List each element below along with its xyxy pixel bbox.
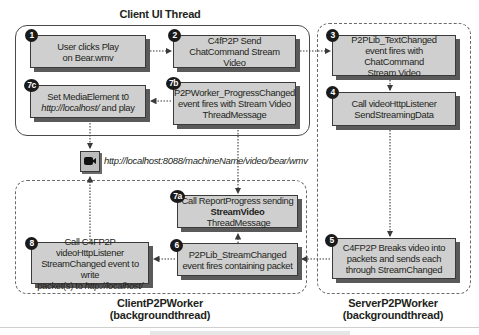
- step-5-badge: 5: [325, 234, 338, 247]
- step-8-badge: 8: [25, 237, 38, 250]
- step-2-badge: 2: [168, 29, 181, 42]
- step-5-line3: through StreamChanged: [346, 264, 442, 275]
- step-1-badge: 1: [25, 29, 38, 42]
- step-4-badge: 4: [326, 86, 339, 99]
- stream-url: http://localhost:8088/machineName/video/…: [104, 155, 308, 166]
- step-3-line2: event fires with ChatCommand: [364, 45, 424, 67]
- step-7b-badge: 7b: [166, 77, 181, 90]
- server-p2p-worker-title-line1: ServerP2PWorker: [348, 297, 438, 309]
- step-6-line1: P2PLib_StreamChanged: [189, 249, 287, 260]
- step-7a-bold: StreamVideo: [211, 206, 265, 217]
- server-p2p-worker-title-line2: (backgroundthread): [343, 309, 443, 321]
- step-4-line1: Call videoHttpListener: [351, 98, 436, 109]
- step-3-line1: P2PLib_TextChanged: [351, 34, 436, 45]
- step-8-box: Call C4FP2P videoHttpListener StreamChan…: [31, 242, 149, 284]
- step-6-badge: 6: [170, 239, 183, 252]
- step-1-box: User clicks Play on Bear.wmv: [30, 35, 146, 68]
- client-p2p-worker-title-line1: ClientP2PWorker: [117, 297, 203, 309]
- step-7b-line3: ThreadMessage: [203, 109, 267, 120]
- step-4-box: Call videoHttpListener SendStreamingData: [332, 92, 456, 126]
- client-p2p-worker-title-line2: (backgroundthread): [110, 309, 210, 321]
- caption-divider: [0, 327, 479, 328]
- step-6-line2: event fires containing packet: [182, 260, 292, 271]
- client-p2p-worker-title: ClientP2PWorker (backgroundthread): [100, 297, 220, 321]
- step-7a-badge: 7a: [170, 190, 185, 203]
- step-8-line2: StreamChanged event to write: [41, 258, 139, 280]
- step-8-line3-rest: packet(s) to: [37, 280, 85, 291]
- step-1-line1: User clicks Play: [57, 41, 118, 52]
- step-2-line2: ChatCommand Stream Video: [189, 46, 279, 68]
- step-7b-box: P2PWorker_ProgressChanged event fires wi…: [173, 82, 296, 125]
- step-2-line1: C4fP2P Send: [208, 35, 261, 46]
- step-8-url: http://localhost/: [85, 280, 143, 291]
- step-3-badge: 3: [326, 29, 339, 42]
- step-3-line3: Stream Video: [367, 67, 420, 78]
- step-5-box: C4FP2P Breaks video into packets and sen…: [332, 238, 456, 279]
- step-7a-line2-rest: ThreadMessage: [205, 217, 271, 228]
- server-p2p-worker-title: ServerP2PWorker (backgroundthread): [333, 297, 453, 321]
- step-7a-box: Call ReportProgress sending StreamVideo …: [177, 195, 298, 228]
- step-7b-line1: P2PWorker_ProgressChanged: [174, 87, 295, 98]
- step-3-box: P2PLib_TextChanged event fires with Chat…: [332, 35, 456, 76]
- step-4-line2: SendStreamingData: [354, 109, 433, 120]
- video-camera-icon: [80, 151, 100, 172]
- step-7c-line2-rest: and play: [99, 102, 134, 113]
- cropped-caption-fragment: [150, 331, 350, 335]
- step-7a-line1: Call ReportProgress sending: [182, 195, 294, 206]
- step-8-line1: Call C4FP2P videoHttpListener: [56, 236, 124, 258]
- step-6-box: P2PLib_StreamChanged event fires contain…: [177, 243, 298, 276]
- step-7c-line1: Set MediaElement t0: [47, 91, 128, 102]
- step-7c-badge: 7c: [24, 79, 39, 92]
- step-7c-url: http://localhost/: [41, 102, 99, 113]
- step-7b-line2: event fires with Stream Video: [178, 98, 291, 109]
- step-7c-box: Set MediaElement t0 http://localhost/ an…: [30, 85, 146, 118]
- step-1-line2: on Bear.wmv: [63, 52, 114, 63]
- step-5-line2: packets and sends each: [347, 253, 442, 264]
- step-2-box: C4fP2P Send ChatCommand Stream Video: [173, 35, 296, 68]
- step-5-line1: C4FP2P Breaks video into: [343, 242, 446, 253]
